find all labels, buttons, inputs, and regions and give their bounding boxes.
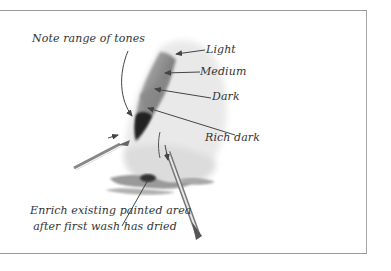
left-brush	[74, 135, 130, 170]
caption: Enrich existing painted area after first…	[30, 203, 180, 235]
caption-line-2: after first wash has dried	[30, 219, 180, 235]
label-light: Light	[206, 43, 236, 56]
caption-line-1: Enrich existing painted area	[30, 203, 180, 219]
label-rich-dark: Rich dark	[205, 131, 260, 144]
label-dark: Dark	[212, 90, 240, 103]
label-medium: Medium	[200, 65, 246, 78]
arrow-note-range	[122, 51, 132, 116]
label-note-range: Note range of tones	[32, 32, 145, 45]
